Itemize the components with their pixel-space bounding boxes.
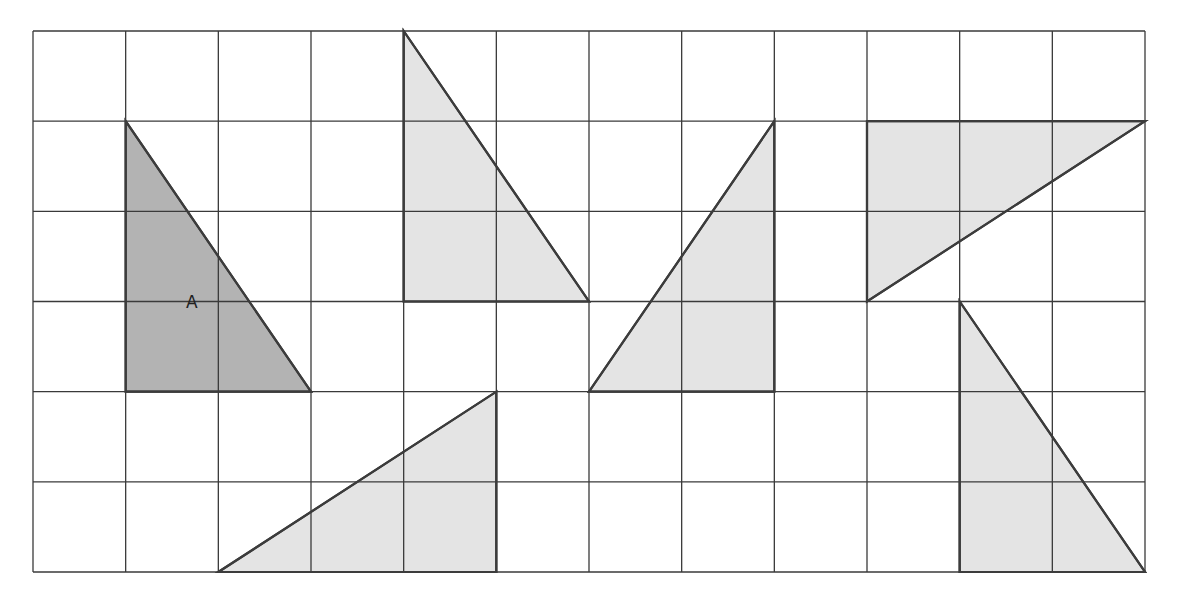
triangle-a-label: A [186, 292, 198, 312]
labels-layer: A [186, 292, 198, 312]
triangle-grid-diagram: A [0, 0, 1180, 596]
